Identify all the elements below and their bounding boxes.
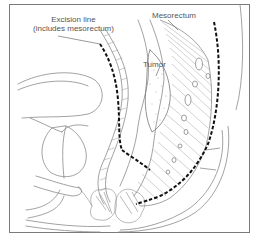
bladder-outline: [18, 73, 102, 118]
mesorectum-leader-line: [168, 20, 178, 30]
excision-leader-line: [58, 36, 100, 44]
excision-line-label-line1: Excision line: [33, 15, 114, 24]
rectum-anterior-wall: [98, 30, 122, 204]
excision-line-label: Excision line (includes mesorectum): [33, 15, 114, 33]
mesorectum-region: [138, 20, 212, 206]
urethra-outline: [34, 176, 82, 196]
anal-sphincter: [78, 186, 145, 223]
perineum-line: [26, 220, 110, 227]
rectal-lumen: [120, 20, 149, 186]
sacrum-curve: [118, 4, 243, 232]
mesorectum-label: Mesorectum: [152, 11, 196, 20]
lymph-nodes: [166, 58, 210, 174]
pelvic-anatomy-illustration: [0, 0, 259, 241]
excision-line-label-line2: (includes mesorectum): [33, 24, 114, 33]
tumor-label: Tumor: [143, 60, 166, 69]
